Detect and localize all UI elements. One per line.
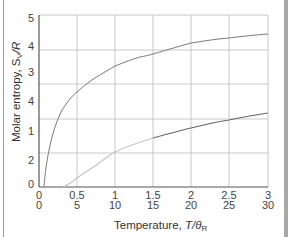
y-tick-label: 4 [28,95,34,107]
entropy-chart: 5 4 3 4 1 2 0 0 0.5 1 1.5 2 2.5 3 0 5 10… [0,0,290,237]
grid [39,15,268,187]
upper-curve [44,34,268,187]
y-tick-label: 0 [28,178,34,190]
x-tick-label-secondary: 5 [74,199,80,211]
y-tick-label: 2 [28,154,34,166]
y-axis-title: Molar entropy, SV/R [10,42,24,142]
x-tick-label-secondary: 0 [36,199,42,211]
x-tick-label-secondary: 30 [262,199,274,211]
x-tick-labels: 0 0.5 1 1.5 2 2.5 3 0 5 10 15 20 25 30 [36,189,274,211]
x-tick-label-secondary: 15 [147,199,159,211]
x-tick-label-secondary: 10 [109,199,121,211]
y-tick-labels: 5 4 3 4 1 2 0 [28,12,34,190]
x-axis-title: Temperature, T/θR [114,219,207,233]
y-tick-label: 4 [28,40,34,52]
y-tick-label: 1 [28,125,34,137]
y-tick-label: 5 [28,12,34,24]
lower-curve-dark [153,113,268,138]
y-tick-label: 3 [28,66,34,78]
x-tick-label-secondary: 25 [223,199,235,211]
x-tick-label-secondary: 20 [185,199,197,211]
